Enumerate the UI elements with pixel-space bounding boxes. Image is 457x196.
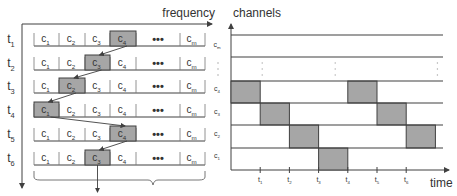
channel-row: t6c1c2c3c4•••cm: [7, 150, 205, 168]
diagram-canvas: frequencyt1c1c2c3c4•••cmt2c1c2c3c4•••cmt…: [0, 0, 457, 196]
cell-label: c3: [92, 33, 101, 46]
vertical-ellipsis: [217, 62, 218, 63]
channel-table-panel: frequencyt1c1c2c3c4•••cmt2c1c2c3c4•••cmt…: [7, 6, 215, 192]
time-label: t1: [7, 32, 14, 49]
time-label: t3: [7, 79, 14, 96]
hop-arrow: [100, 46, 128, 55]
channel-set-brace: [34, 171, 205, 185]
channel-label: c2: [214, 130, 221, 139]
cell-label: c2: [67, 33, 76, 46]
time-tick-label: t5: [375, 176, 380, 185]
cell-label: c2: [67, 57, 76, 70]
cell-label: c1: [41, 57, 50, 70]
channel-label: c4: [214, 85, 221, 94]
ellipsis-dots: •••: [152, 80, 164, 92]
hop-block: [348, 81, 377, 103]
time-label: t4: [7, 103, 14, 120]
ellipsis-dots: •••: [152, 104, 164, 116]
cell-label: c3: [92, 104, 101, 117]
cell-label: c3: [92, 80, 101, 93]
cell-label: c1: [41, 80, 50, 93]
time-axis-label: time: [430, 176, 453, 190]
time-tick-label: t1: [258, 176, 263, 185]
ellipsis-dots: •••: [152, 128, 164, 140]
channels-axis-label: channels: [233, 6, 281, 20]
channel-row: t1c1c2c3c4•••cm: [7, 31, 205, 49]
channel-label: c3: [214, 108, 221, 117]
channel-label: c1: [214, 152, 221, 161]
vertical-ellipsis: [217, 68, 218, 69]
channel-row: t3c1c2c3c4•••cm: [7, 78, 205, 96]
channel-row: t5c1c2c3c4•••cm: [7, 126, 205, 144]
hop-block: [406, 125, 435, 148]
time-label: t2: [7, 56, 14, 73]
cell-label: cm: [186, 128, 196, 141]
hop-block: [231, 81, 260, 103]
hop-block: [319, 148, 348, 170]
frequency-hopping-diagram: frequencyt1c1c2c3c4•••cmt2c1c2c3c4•••cmt…: [0, 0, 457, 196]
channel-row: t4c1c2c3c4•••cm: [7, 102, 205, 120]
hop-arrow: [100, 141, 128, 150]
cell-label: c2: [67, 152, 76, 165]
cell-label: c1: [41, 152, 50, 165]
time-tick-label: t3: [316, 176, 321, 185]
time-tick-label: t6: [404, 176, 409, 185]
cell-label: cm: [186, 80, 196, 93]
time-tick-label: t2: [287, 176, 292, 185]
cell-label: c2: [67, 128, 76, 141]
time-tick-label: t4: [346, 176, 351, 185]
ellipsis-dots: •••: [152, 33, 164, 45]
cell-label: c4: [118, 152, 127, 165]
cell-label: c4: [118, 104, 127, 117]
vertical-ellipsis: [217, 74, 218, 75]
hop-arrow: [49, 93, 77, 102]
cell-label: cm: [186, 104, 196, 117]
cell-label: c1: [41, 33, 50, 46]
time-label: t5: [7, 127, 14, 144]
cell-label: c1: [41, 128, 50, 141]
time-label: t6: [7, 151, 14, 168]
ellipsis-dots: •••: [152, 57, 164, 69]
channel-row: t2c1c2c3c4•••cm: [7, 55, 205, 73]
cell-label: c2: [67, 104, 76, 117]
hop-arrow: [51, 117, 126, 126]
cell-label: c4: [118, 57, 127, 70]
ellipsis-dots: •••: [152, 152, 164, 164]
hop-block: [289, 125, 318, 148]
channel-label: cm: [213, 41, 221, 50]
cell-label: cm: [186, 57, 196, 70]
channel-time-chart-panel: channelstimecmc4c3c2c1t1t2t3t4t5t6: [213, 6, 453, 190]
cell-label: cm: [186, 152, 196, 165]
hop-block: [377, 103, 406, 125]
cell-label: c4: [118, 80, 127, 93]
cell-label: cm: [186, 33, 196, 46]
cell-label: c3: [92, 128, 101, 141]
hop-arrow: [74, 70, 102, 78]
hop-block: [260, 103, 289, 125]
frequency-axis-label: frequency: [162, 6, 215, 20]
